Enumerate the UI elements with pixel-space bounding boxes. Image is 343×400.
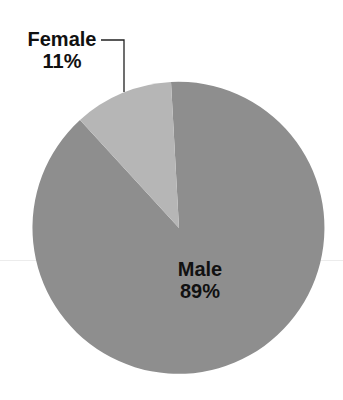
female-label-name: Female xyxy=(24,28,100,50)
pie-slice-male xyxy=(32,82,324,374)
male-label-percent: 89% xyxy=(165,280,235,302)
female-label: Female 11% xyxy=(24,28,100,72)
male-label: Male 89% xyxy=(165,258,235,302)
female-label-percent: 11% xyxy=(24,50,100,72)
male-label-name: Male xyxy=(165,258,235,280)
female-leader-line xyxy=(101,40,124,92)
